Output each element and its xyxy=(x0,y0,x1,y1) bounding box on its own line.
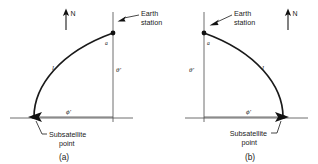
panel-a-earth-station-leader xyxy=(118,15,140,22)
panel-a-earth-station-label-line1: Earth xyxy=(141,9,158,18)
panel-a-subsatellite-label-line1: Subsatellite xyxy=(49,130,86,139)
panel-a-subsatellite-leader xyxy=(36,121,47,134)
panel-a-subsatellite-label-line2: point xyxy=(59,139,75,148)
panel-b-arc-length-symbol: l xyxy=(262,64,264,72)
spherical-geometry-figure: N Earth station Subsatellite point l θ' … xyxy=(0,0,318,164)
panel-a-north-arrow xyxy=(63,9,69,31)
panel-b-earth-station-label-line1: Earth xyxy=(234,9,251,18)
panel-b-polar-angle-symbol: θ' xyxy=(189,66,194,74)
panel-a-great-circle-arc xyxy=(34,33,113,117)
panel-b-earth-station-label-line2: station xyxy=(234,18,255,27)
panel-a-arc-length-symbol: l xyxy=(52,64,54,72)
panel-b-azimuth-angle-symbol: ϕ' xyxy=(246,108,252,116)
panel-a-azimuth-angle-symbol: ϕ' xyxy=(66,108,72,116)
panel-a-polar-angle-symbol: θ' xyxy=(116,66,121,74)
panel-b-subsatellite-leader xyxy=(271,121,281,133)
panel-a-north-label: N xyxy=(71,10,76,17)
panel-b-subsatellite-node xyxy=(281,115,285,119)
panel-b-subsatellite-label-line1: Subsatellite xyxy=(230,129,267,138)
figure-canvas: N Earth station Subsatellite point l θ' … xyxy=(0,0,318,164)
panel-b-great-circle-arc xyxy=(204,33,283,117)
panel-a-vertex-angle-symbol: a xyxy=(105,40,108,46)
panel-b-north-arrow xyxy=(285,9,291,31)
panel-b-subsatellite-label-line2: point xyxy=(241,138,257,147)
panel-b-earth-station-leader xyxy=(210,15,233,26)
panel-a-subsatellite-node xyxy=(32,115,36,119)
panel-b: N Earth station Subsatellite point l θ' … xyxy=(185,9,308,163)
panel-a-earth-station-label-line2: station xyxy=(141,18,162,27)
panel-b-caption: (b) xyxy=(245,152,255,162)
panel-b-earth-station-node xyxy=(202,31,207,36)
panel-b-north-label: N xyxy=(293,10,298,17)
panel-a-caption: (a) xyxy=(59,152,69,162)
panel-a: N Earth station Subsatellite point l θ' … xyxy=(10,9,162,163)
panel-b-vertex-angle-symbol: a xyxy=(207,40,210,46)
panel-a-earth-station-node xyxy=(111,31,116,36)
